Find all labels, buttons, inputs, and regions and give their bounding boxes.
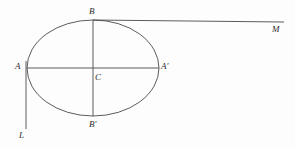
vertex-label-a: A — [15, 62, 21, 71]
vertex-label-m: M — [272, 25, 280, 34]
vertex-label-a-prime: A' — [161, 62, 168, 71]
vertex-label-b: B — [89, 7, 95, 16]
vertex-label-l: L — [19, 131, 24, 140]
geometry-figure: B M A C A' B' L — [0, 0, 295, 148]
figure-canvas — [0, 0, 295, 148]
vertex-label-c: C — [95, 73, 101, 82]
vertex-label-b-prime: B' — [89, 120, 96, 129]
tangent-line-bm — [93, 20, 284, 22]
